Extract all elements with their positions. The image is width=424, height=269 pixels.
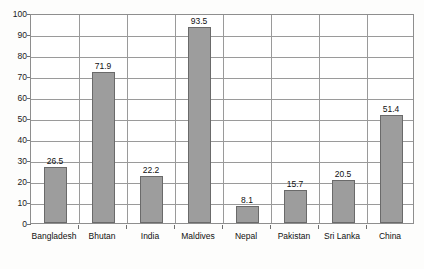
bar	[236, 206, 259, 223]
y-axis-tick-label: 60	[3, 93, 27, 103]
bar	[188, 27, 211, 223]
x-axis-tick-mark	[270, 225, 271, 229]
y-axis: 0102030405060708090100	[0, 14, 27, 224]
bar	[44, 167, 67, 223]
bar-chart: 0102030405060708090100 26.571.922.293.58…	[0, 0, 424, 269]
gridline-vertical	[175, 15, 176, 223]
bar-value-label: 22.2	[143, 165, 160, 175]
gridline-horizontal	[31, 204, 413, 205]
x-axis-category-label: Nepal	[235, 231, 257, 241]
bar-value-label: 8.1	[241, 195, 253, 205]
x-axis: BangladeshBhutanIndiaMaldivesNepalPakist…	[30, 225, 414, 255]
y-axis-tick-label: 30	[3, 156, 27, 166]
y-axis-tick-label: 0	[3, 219, 27, 229]
bar-value-label: 93.5	[191, 16, 208, 26]
x-axis-category-label: India	[141, 231, 159, 241]
bar-value-label: 51.4	[383, 104, 400, 114]
gridline-horizontal	[31, 78, 413, 79]
y-axis-tick-label: 20	[3, 177, 27, 187]
bar	[284, 190, 307, 223]
gridline-horizontal	[31, 36, 413, 37]
y-axis-tick-label: 100	[3, 9, 27, 19]
gridline-vertical	[319, 15, 320, 223]
gridline-vertical	[367, 15, 368, 223]
gridline-vertical	[127, 15, 128, 223]
gridline-vertical	[79, 15, 80, 223]
y-axis-tick-label: 40	[3, 135, 27, 145]
bar-value-label: 20.5	[335, 169, 352, 179]
bar-value-label: 15.7	[287, 179, 304, 189]
y-axis-tick-label: 80	[3, 51, 27, 61]
x-axis-tick-mark	[222, 225, 223, 229]
x-axis-tick-mark	[126, 225, 127, 229]
gridline-horizontal	[31, 183, 413, 184]
y-axis-tick-label: 10	[3, 198, 27, 208]
plot-area: 26.571.922.293.58.115.720.551.4	[30, 14, 414, 224]
x-axis-tick-mark	[366, 225, 367, 229]
x-axis-tick-mark	[174, 225, 175, 229]
gridline-horizontal	[31, 141, 413, 142]
gridline-horizontal	[31, 99, 413, 100]
x-axis-category-label: Maldives	[181, 231, 215, 241]
gridline-vertical	[271, 15, 272, 223]
x-axis-category-label: Bangladesh	[32, 231, 77, 241]
gridline-horizontal	[31, 120, 413, 121]
bar	[380, 115, 403, 223]
y-axis-tick-label: 70	[3, 72, 27, 82]
bar	[92, 72, 115, 223]
bar	[332, 180, 355, 223]
x-axis-tick-mark	[78, 225, 79, 229]
gridline-vertical	[223, 15, 224, 223]
x-axis-category-label: Sri Lanka	[324, 231, 360, 241]
bar	[140, 176, 163, 223]
gridline-horizontal	[31, 57, 413, 58]
y-axis-tick-label: 90	[3, 30, 27, 40]
x-axis-category-label: Pakistan	[278, 231, 311, 241]
bar-value-label: 71.9	[95, 61, 112, 71]
y-axis-tick-label: 50	[3, 114, 27, 124]
x-axis-category-label: Bhutan	[89, 231, 116, 241]
gridline-horizontal	[31, 162, 413, 163]
x-axis-category-label: China	[379, 231, 401, 241]
x-axis-tick-mark	[318, 225, 319, 229]
bar-value-label: 26.5	[47, 156, 64, 166]
